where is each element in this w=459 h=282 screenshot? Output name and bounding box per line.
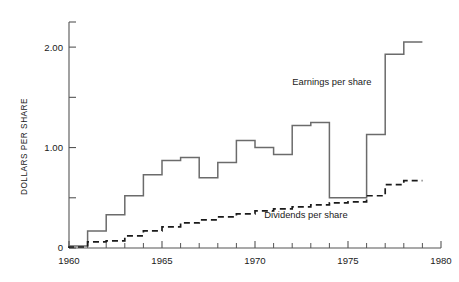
y-tick-label: 2.00 — [44, 42, 63, 53]
chart-container: DOLLARS PER SHARE 01.002.00 196019651970… — [0, 0, 459, 282]
x-tick-label: 1970 — [244, 255, 265, 266]
earnings-series-label: Earnings per share — [292, 76, 371, 87]
x-axis-tick-labels: 19601965197019751980 — [58, 255, 451, 266]
x-axis-ticks — [69, 241, 441, 248]
x-tick-label: 1980 — [430, 255, 451, 266]
y-axis-tick-labels: 01.002.00 — [44, 42, 63, 254]
x-tick-label: 1965 — [151, 255, 172, 266]
chart-svg: 01.002.00 19601965197019751980 Earnings … — [0, 0, 459, 282]
earnings-per-share-line — [69, 42, 422, 248]
x-tick-label: 1960 — [58, 255, 79, 266]
x-tick-label: 1975 — [337, 255, 358, 266]
y-tick-label: 1.00 — [44, 142, 63, 153]
y-tick-label: 0 — [58, 242, 63, 253]
y-axis-ticks — [69, 47, 76, 248]
dividends-series-label: Dividends per share — [264, 209, 347, 220]
